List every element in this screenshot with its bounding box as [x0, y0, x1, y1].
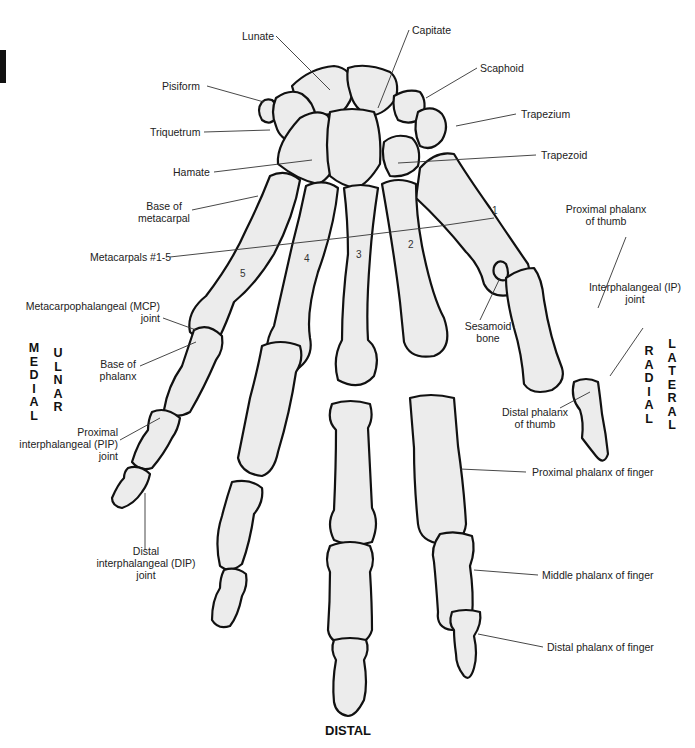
ring-middle-phalanx-bone: [217, 481, 262, 570]
ring-proximal-phalanx-bone: [238, 342, 301, 476]
label-distal-phalanx-of-finger: Distal phalanx of finger: [547, 641, 654, 653]
trapezoid-bone: [383, 136, 419, 177]
label-scaphoid: Scaphoid: [480, 62, 524, 74]
label-ip-joint: Interphalangeal (IP) joint: [583, 281, 687, 305]
metacarpal-number-1: 1: [492, 205, 498, 216]
label-base-of-metacarpal: Base of metacarpal: [136, 200, 192, 224]
ring-distal-phalanx-bone: [212, 569, 247, 627]
label-distal-phalanx-of-thumb: Distal phalanx of thumb: [490, 406, 580, 430]
hand-skeleton-diagram: 1 2 3 4 5 Lu: [0, 0, 695, 748]
label-lunate: Lunate: [242, 30, 274, 42]
label-capitate: Capitate: [412, 24, 451, 36]
label-triquetrum: Triquetrum: [150, 126, 200, 138]
metacarpal-number-5: 5: [240, 268, 246, 279]
metacarpal-number-3: 3: [356, 249, 362, 260]
little-distal-phalanx-bone: [112, 467, 150, 508]
middle-middle-phalanx-bone: [327, 542, 373, 646]
label-hamate: Hamate: [173, 166, 210, 178]
label-sesamoid-bone: Sesamoid bone: [460, 320, 516, 344]
middle-distal-phalanx-bone: [332, 638, 367, 716]
label-trapezium: Trapezium: [521, 108, 570, 120]
index-distal-phalanx-bone: [450, 610, 480, 678]
label-pip-joint: Proximal interphalangeal (PIP) joint: [10, 426, 118, 462]
orientation-distal: DISTAL: [325, 723, 371, 738]
orientation-radial: RADIAL: [643, 345, 655, 426]
metacarpal-number-4: 4: [304, 253, 310, 264]
index-proximal-phalanx-bone: [410, 395, 466, 544]
label-trapezoid: Trapezoid: [541, 149, 587, 161]
label-middle-phalanx-of-finger: Middle phalanx of finger: [542, 569, 654, 581]
orientation-medial: MEDIAL: [28, 342, 40, 423]
label-mcp-joint: Metacarpophalangeal (MCP) joint: [20, 300, 160, 324]
orientation-lateral: LATERAL: [666, 338, 678, 433]
label-proximal-phalanx-of-thumb: Proximal phalanx of thumb: [556, 203, 656, 227]
label-base-of-phalanx: Base of phalanx: [96, 358, 140, 382]
label-metacarpals: Metacarpals #1-5: [90, 251, 171, 263]
little-proximal-phalanx-bone: [164, 327, 222, 415]
label-pisiform: Pisiform: [162, 80, 200, 92]
little-middle-phalanx-bone: [132, 410, 180, 469]
label-proximal-phalanx-of-finger: Proximal phalanx of finger: [532, 466, 653, 478]
middle-proximal-phalanx-bone: [330, 401, 376, 545]
capitate-bone: [327, 109, 380, 188]
metacarpal-number-2: 2: [408, 239, 414, 250]
orientation-ulnar: ULNAR: [52, 347, 64, 415]
metacarpal-3-bone: [336, 185, 378, 385]
label-dip-joint: Distal interphalangeal (DIP) joint: [94, 545, 198, 581]
trapezium-bone: [415, 108, 446, 148]
